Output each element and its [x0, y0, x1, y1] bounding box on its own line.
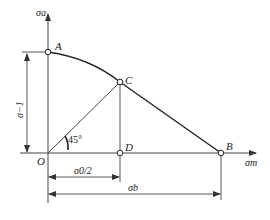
line-OC-45deg: [48, 82, 120, 153]
point-A: [45, 49, 51, 55]
sigma-b-label: σb: [128, 182, 138, 193]
origin-label: O: [37, 155, 45, 167]
sigma-minus1-label: σ−1: [14, 101, 25, 118]
label-B: B: [226, 140, 233, 152]
angle-label: 45°: [68, 134, 82, 145]
x-axis-label: σm: [245, 157, 257, 168]
point-D: [117, 150, 123, 156]
sigma0-half-label: σ0/2: [74, 165, 92, 176]
stress-diagram: σa σm O A C D B 45° σ−1 σ0/2 σb: [0, 0, 270, 220]
limit-curve-AC: [48, 52, 120, 82]
point-B: [218, 150, 224, 156]
diagram-canvas: σa σm O A C D B 45° σ−1 σ0/2 σb: [0, 0, 270, 220]
label-C: C: [125, 74, 133, 86]
y-axis-label: σa: [36, 7, 46, 18]
limit-line-CB: [120, 82, 221, 153]
label-A: A: [54, 40, 62, 52]
point-C: [117, 79, 123, 85]
label-D: D: [124, 141, 133, 153]
